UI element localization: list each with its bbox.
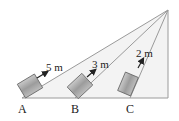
inclined-planes-diagram: 5 m 3 m 2 m A B C xyxy=(0,0,179,121)
distance-b: 3 m xyxy=(92,58,109,70)
label-c: C xyxy=(126,102,134,116)
label-b: B xyxy=(71,102,79,116)
distance-c: 2 m xyxy=(136,47,153,59)
label-a: A xyxy=(18,102,27,116)
distance-a: 5 m xyxy=(46,61,63,73)
